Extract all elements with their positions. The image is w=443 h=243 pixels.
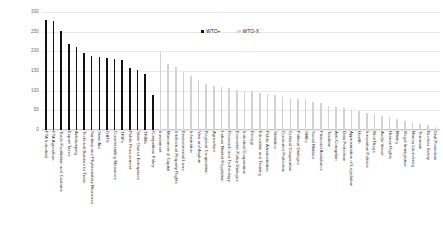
bar-slot <box>332 12 340 130</box>
x-axis-tick-label: Consumer Protection <box>281 131 285 172</box>
x-axis-label-slot: Regional Cooperation <box>202 131 210 243</box>
x-axis-tick-label: TRIMs <box>143 131 147 144</box>
x-axis-label-slot: Information <box>187 131 195 243</box>
bar-slot <box>432 12 440 130</box>
y-axis: 050100150200250300 <box>20 12 42 130</box>
bar <box>83 53 85 130</box>
bar <box>328 106 330 130</box>
x-axis-label-slot: Investment <box>157 131 165 243</box>
x-axis-label-slot: Statistics <box>271 131 279 243</box>
x-axis-label-slot: State Aid <box>95 131 103 243</box>
x-axis-tick-label: Public Administration <box>265 131 269 172</box>
x-axis-label-slot: Audio Visual <box>378 131 386 243</box>
x-axis-tick-label: Public Procurement <box>128 131 132 169</box>
x-axis-label-slot: Trade Facilitation and Customs <box>57 131 65 243</box>
bar-slot <box>294 12 302 130</box>
bar <box>175 67 177 130</box>
bar-slot <box>363 12 371 130</box>
legend-item-wto-plus: WTO+ <box>201 29 220 34</box>
x-axis-tick-label: FTA Industrial <box>44 131 48 158</box>
x-axis-tick-label: Financial Assistance <box>319 131 323 171</box>
bar <box>343 108 345 130</box>
bar <box>381 116 383 130</box>
legend-label: WTO+ <box>206 29 221 34</box>
bar <box>106 58 108 130</box>
x-axis-tick-label: Human Rights <box>387 131 391 159</box>
bar-slot <box>180 12 188 130</box>
bar-slot <box>65 12 73 130</box>
bar <box>114 59 116 130</box>
x-axis-tick-label: Innovation Policies <box>365 131 369 168</box>
bar <box>351 110 353 130</box>
x-axis-labels: FTA IndustrialFTA AgricultureTrade Facil… <box>42 131 440 243</box>
bar-slot <box>95 12 103 130</box>
bar <box>435 127 437 130</box>
bar <box>251 91 253 130</box>
bar <box>404 121 406 130</box>
x-axis-tick-label: Statistics <box>273 131 277 149</box>
bar <box>305 99 307 130</box>
bar-slot <box>264 12 272 130</box>
bar-slot <box>371 12 379 130</box>
bar-slot <box>141 12 149 130</box>
x-axis-tick-label: Trade Facilitation and Customs <box>59 131 63 192</box>
legend-label: WTO-X <box>242 29 259 34</box>
bar <box>297 99 299 130</box>
bar <box>228 88 230 130</box>
x-axis-label-slot: Sanitary and Phytosanitary Measures <box>88 131 96 243</box>
bar-slot <box>157 12 165 130</box>
x-axis-tick-label: Countervailing Measures <box>112 131 116 180</box>
x-axis-tick-label: Education and Training <box>258 131 262 176</box>
chart-legend: WTO+ WTO-X <box>201 29 259 34</box>
x-axis-tick-label: Approximation of Legislation <box>349 131 353 186</box>
x-axis-label-slot: Nuclear Safety <box>424 131 432 243</box>
bar-slot <box>287 12 295 130</box>
bar-slot <box>42 12 50 130</box>
bar <box>45 20 47 130</box>
x-axis-label-slot: Civil Protection <box>432 131 440 243</box>
x-axis-label-slot: Mining <box>393 131 401 243</box>
x-axis-label-slot: Terrorism <box>416 131 424 243</box>
bar <box>374 114 376 130</box>
x-axis-label-slot: FTA Industrial <box>42 131 50 243</box>
bar <box>190 76 192 130</box>
x-axis-tick-label: Illicit Drugs <box>372 131 376 153</box>
bar-slot <box>149 12 157 130</box>
x-axis-tick-label: Antidumping <box>74 131 78 155</box>
bar <box>167 64 169 130</box>
x-axis-tick-label: FTA Agriculture <box>51 131 55 161</box>
x-axis-tick-label: Political Dialogue <box>296 131 300 165</box>
bar <box>320 103 322 130</box>
x-axis-tick-label: Intellectual Property Rights <box>174 131 178 184</box>
x-axis-label-slot: Health <box>355 131 363 243</box>
bar-slot <box>164 12 172 130</box>
bar <box>427 125 429 130</box>
x-axis-label-slot: Research and Technology <box>225 131 233 243</box>
x-axis-tick-label: GATS <box>105 131 109 143</box>
x-axis-tick-label: Anti-Corruption <box>334 131 338 161</box>
bar-slot <box>126 12 134 130</box>
x-axis-tick-label: Social Matters <box>311 131 315 159</box>
x-axis-label-slot: Consumer Protection <box>279 131 287 243</box>
bar <box>129 68 131 130</box>
bar-slot <box>73 12 81 130</box>
x-axis-label-slot: Export Taxes <box>65 131 73 243</box>
x-axis-tick-label: Movement of Capital <box>166 131 170 171</box>
x-axis-tick-label: Mining <box>395 131 399 144</box>
x-axis-label-slot: Competition Policy <box>149 131 157 243</box>
x-axis-tick-label: Visa and Asylum <box>196 131 200 163</box>
x-axis-label-slot: Public Procurement <box>126 131 134 243</box>
bar-slot <box>386 12 394 130</box>
x-axis-label-slot: TRIMs <box>141 131 149 243</box>
bar <box>205 84 207 130</box>
bar <box>244 91 246 130</box>
bar <box>68 44 70 130</box>
y-axis-tick-label: 0 <box>36 128 39 133</box>
y-axis-tick-label: 300 <box>31 10 39 15</box>
bar-slot <box>271 12 279 130</box>
bar <box>396 119 398 130</box>
x-axis-tick-label: Health <box>357 131 361 144</box>
y-axis-tick-label: 150 <box>31 69 39 74</box>
bar <box>389 117 391 130</box>
bar <box>267 94 269 130</box>
